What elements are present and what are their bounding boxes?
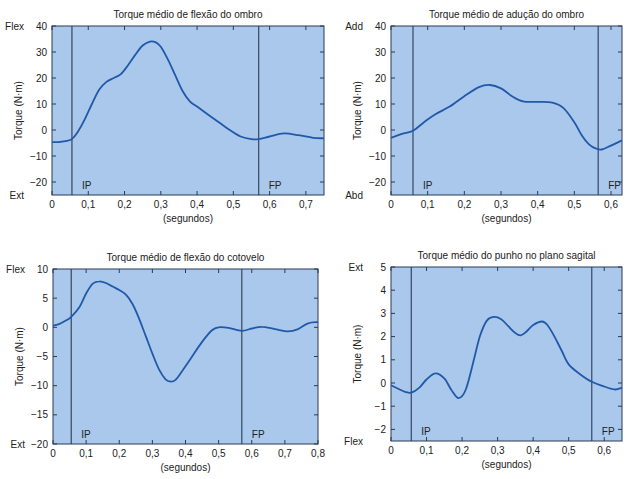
- phase-label-ip: IP: [82, 180, 92, 191]
- phase-label-fp: FP: [269, 180, 282, 191]
- plot-area: [53, 269, 318, 444]
- x-tick-label: 0,4: [526, 445, 540, 456]
- y-tick-label: 3: [380, 308, 386, 319]
- y-direction-bottom-label: Ext: [10, 190, 25, 201]
- y-direction-bottom-label: Flex: [344, 436, 363, 447]
- x-tick-label: 0,4: [190, 199, 204, 210]
- y-tick-label: −20: [369, 177, 386, 188]
- x-tick-label: 0,2: [112, 448, 126, 459]
- x-tick-label: 0,7: [299, 199, 313, 210]
- chart-title: Torque médio de flexão do ombro: [114, 9, 263, 20]
- x-axis-label: (segundos): [481, 213, 531, 224]
- chart-title: Torque médio do punho no plano sagital: [418, 250, 596, 261]
- x-tick-label: 0,3: [154, 199, 168, 210]
- y-tick-label: 20: [375, 73, 387, 84]
- phase-label-ip: IP: [421, 426, 431, 437]
- y-tick-label: −10: [369, 151, 386, 162]
- phase-label-fp: FP: [608, 180, 621, 191]
- x-tick-label: 0,8: [311, 448, 325, 459]
- y-axis-label: Torque (N·m): [352, 325, 363, 384]
- x-tick-label: 0,7: [278, 448, 292, 459]
- x-tick-label: 0,6: [604, 199, 618, 210]
- chart-wrist-sagittal: Torque médio do punho no plano sagital00…: [344, 250, 622, 470]
- y-tick-label: −20: [31, 439, 48, 450]
- y-tick-label: −2: [375, 424, 387, 435]
- y-tick-label: 30: [36, 47, 48, 58]
- y-tick-label: 40: [36, 21, 48, 32]
- chart-shoulder-flexion: Torque médio de flexão do ombro00,10,20,…: [5, 9, 324, 224]
- y-direction-bottom-label: Abd: [345, 190, 363, 201]
- x-tick-label: 0,1: [81, 199, 95, 210]
- y-direction-top-label: Flex: [6, 264, 25, 275]
- plot-area: [52, 26, 324, 195]
- y-tick-label: −1: [375, 401, 387, 412]
- y-tick-label: 2: [380, 331, 386, 342]
- y-tick-label: 0: [42, 322, 48, 333]
- x-tick-label: 0,3: [494, 199, 508, 210]
- x-tick-label: 0,1: [79, 448, 93, 459]
- x-tick-label: 0,4: [179, 448, 193, 459]
- y-tick-label: 5: [380, 262, 386, 273]
- x-tick-label: 0,3: [491, 445, 505, 456]
- chart-elbow-flexion: Torque médio de flexão do cotovelo00,10,…: [6, 252, 325, 473]
- x-tick-label: 0,6: [263, 199, 277, 210]
- x-tick-label: 0,6: [245, 448, 259, 459]
- y-tick-label: 0: [380, 125, 386, 136]
- y-tick-label: 4: [380, 285, 386, 296]
- y-tick-label: 20: [36, 73, 48, 84]
- y-tick-label: −15: [31, 409, 48, 420]
- x-tick-label: 0,5: [212, 448, 226, 459]
- y-axis-label: Torque (N·m): [14, 327, 25, 386]
- x-tick-label: 0,2: [455, 445, 469, 456]
- y-axis-label: Torque (N·m): [13, 81, 24, 140]
- x-tick-label: 0,2: [118, 199, 132, 210]
- x-tick-label: 0,5: [226, 199, 240, 210]
- chart-title: Torque médio de adução do ombro: [429, 9, 585, 20]
- chart-shoulder-adduction: Torque médio de adução do ombro00,10,20,…: [345, 9, 622, 224]
- y-tick-label: 5: [42, 293, 48, 304]
- figure-canvas: Torque médio de flexão do ombro00,10,20,…: [0, 0, 634, 479]
- y-tick-label: 10: [36, 99, 48, 110]
- y-tick-label: 0: [41, 125, 47, 136]
- x-tick-label: 0,4: [531, 199, 545, 210]
- y-tick-label: 40: [375, 21, 387, 32]
- x-tick-label: 0,3: [145, 448, 159, 459]
- x-tick-label: 0: [388, 445, 394, 456]
- plot-area: [391, 267, 622, 441]
- x-tick-label: 0,2: [457, 199, 471, 210]
- y-tick-label: 10: [37, 264, 49, 275]
- x-tick-label: 0,5: [567, 199, 581, 210]
- plot-area: [391, 26, 622, 195]
- x-tick-label: 0,1: [421, 199, 435, 210]
- phase-label-ip: IP: [423, 180, 433, 191]
- y-axis-label: Torque (N·m): [352, 81, 363, 140]
- y-tick-label: 10: [375, 99, 387, 110]
- chart-title: Torque médio de flexão do cotovelo: [107, 252, 265, 263]
- y-tick-label: 30: [375, 47, 387, 58]
- x-tick-label: 0,6: [597, 445, 611, 456]
- y-tick-label: −10: [31, 380, 48, 391]
- x-tick-label: 0,1: [420, 445, 434, 456]
- phase-label-fp: FP: [602, 426, 615, 437]
- y-tick-label: 0: [380, 378, 386, 389]
- y-direction-bottom-label: Ext: [11, 439, 26, 450]
- y-tick-label: 1: [380, 354, 386, 365]
- x-axis-label: (segundos): [160, 462, 210, 473]
- x-axis-label: (segundos): [481, 459, 531, 470]
- x-tick-label: 0: [49, 199, 55, 210]
- y-direction-top-label: Flex: [5, 21, 24, 32]
- y-direction-top-label: Ext: [349, 262, 364, 273]
- phase-label-ip: IP: [81, 429, 91, 440]
- x-tick-label: 0: [50, 448, 56, 459]
- y-tick-label: −10: [30, 151, 47, 162]
- x-tick-label: 0: [388, 199, 394, 210]
- x-axis-label: (segundos): [163, 213, 213, 224]
- y-direction-top-label: Add: [345, 21, 363, 32]
- phase-label-fp: FP: [252, 429, 265, 440]
- y-tick-label: −20: [30, 177, 47, 188]
- x-tick-label: 0,5: [562, 445, 576, 456]
- y-tick-label: −5: [37, 351, 49, 362]
